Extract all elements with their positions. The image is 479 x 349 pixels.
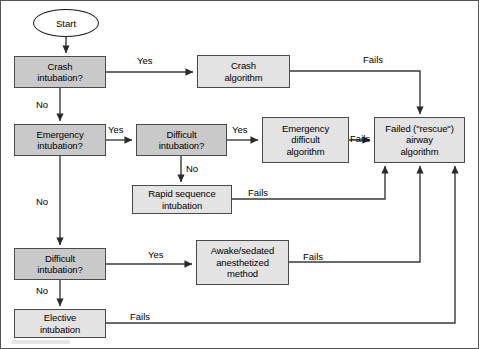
node-difficult-intubation-question-upper-label: Difficult intubation? [157, 129, 206, 152]
edge-label-emergency-difficult-fails: Fails [350, 133, 370, 144]
edge-label-elective-fails: Fails [130, 311, 150, 322]
flowchart-connectors [0, 0, 479, 349]
node-failed-rescue-airway-algorithm-label: Failed ("rescue") airway algorithm [383, 123, 455, 158]
edge-label-difficult-upper-no: No [186, 163, 198, 174]
edge-label-crash-algorithm-fails: Fails [363, 54, 383, 65]
edge-label-crash-yes: Yes [137, 55, 153, 66]
node-emergency-difficult-algorithm-label: Emergency difficult algorithm [280, 123, 331, 158]
edge-label-difficult-lower-no: No [36, 285, 48, 296]
node-difficult-intubation-question-lower[interactable]: Difficult intubation? [14, 248, 106, 280]
node-crash-algorithm-label: Crash algorithm [222, 60, 264, 83]
node-failed-rescue-airway-algorithm[interactable]: Failed ("rescue") airway algorithm [374, 117, 465, 163]
node-emergency-intubation-question-label: Emergency intubation? [34, 129, 85, 152]
node-start[interactable]: Start [33, 9, 99, 37]
node-crash-intubation-question[interactable]: Crash intubation? [14, 56, 106, 88]
node-elective-intubation[interactable]: Elective intubation [14, 309, 106, 338]
node-rapid-sequence-intubation[interactable]: Rapid sequence intubation [132, 185, 232, 214]
node-elective-intubation-label: Elective intubation [38, 312, 82, 335]
edge-label-rapid-sequence-fails: Fails [248, 187, 268, 198]
edge-label-difficult-upper-yes: Yes [232, 124, 248, 135]
node-rapid-sequence-intubation-label: Rapid sequence intubation [146, 188, 217, 211]
connector-crashalgo-fails [290, 71, 420, 114]
scan-artifact [12, 340, 70, 344]
node-difficult-intubation-question-upper[interactable]: Difficult intubation? [136, 124, 227, 156]
node-awake-sedated-anesthetized-method-label: Awake/sedated anesthetized method [209, 245, 277, 280]
node-awake-sedated-anesthetized-method[interactable]: Awake/sedated anesthetized method [196, 240, 289, 285]
node-crash-intubation-question-label: Crash intubation? [35, 61, 84, 84]
edge-label-emergency-yes: Yes [108, 124, 124, 135]
edge-label-emergency-no: No [36, 196, 48, 207]
connector-awake-fails [289, 166, 420, 262]
node-start-label: Start [56, 18, 76, 29]
flowchart-canvas: Start Crash intubation? Crash algorithm … [0, 0, 479, 349]
node-emergency-difficult-algorithm[interactable]: Emergency difficult algorithm [262, 117, 349, 163]
node-crash-algorithm[interactable]: Crash algorithm [197, 55, 290, 88]
node-difficult-intubation-question-lower-label: Difficult intubation? [35, 253, 84, 276]
node-emergency-intubation-question[interactable]: Emergency intubation? [14, 124, 106, 156]
edge-label-crash-no: No [36, 99, 48, 110]
edge-label-difficult-lower-yes: Yes [148, 249, 164, 260]
edge-label-awake-fails: Fails [303, 251, 323, 262]
